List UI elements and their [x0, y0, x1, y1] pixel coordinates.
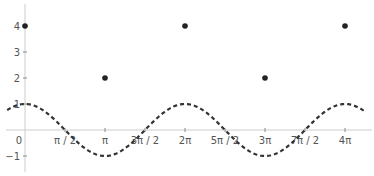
x-ticks: 0π / 2π3π / 22π5π / 23π7π / 24π: [16, 128, 351, 146]
x-tick-label: 3π: [259, 135, 271, 146]
x-tick-label: 5π / 2: [211, 135, 239, 146]
y-tick-label: 1: [14, 99, 20, 110]
y-tick-label: 2: [14, 73, 20, 84]
data-point: [262, 75, 268, 81]
data-point: [342, 23, 348, 29]
x-tick-label: 0: [16, 135, 22, 146]
data-point: [182, 23, 188, 29]
y-tick-label: 3: [14, 47, 20, 58]
x-tick-label: 7π / 2: [291, 135, 319, 146]
x-tick-label: π: [102, 135, 108, 146]
data-point: [22, 23, 28, 29]
x-tick-label: 4π: [339, 135, 351, 146]
data-point: [102, 75, 108, 81]
x-axis: 0π / 2π3π / 22π5π / 23π7π / 24π: [6, 128, 372, 146]
y-tick-label: 4: [14, 21, 20, 32]
x-tick-label: 3π / 2: [131, 135, 159, 146]
y-tick-label: −1: [5, 151, 20, 162]
chart: 0π / 2π3π / 22π5π / 23π7π / 24π −11234: [0, 0, 374, 176]
x-tick-label: 2π: [179, 135, 191, 146]
scatter-points: [22, 23, 348, 81]
y-axis: −11234: [5, 4, 27, 172]
